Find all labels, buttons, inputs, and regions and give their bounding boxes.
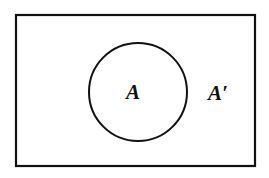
complement-label: A′ [206, 81, 228, 105]
set-a-label: A [124, 80, 140, 104]
venn-diagram: A A′ [0, 0, 269, 178]
